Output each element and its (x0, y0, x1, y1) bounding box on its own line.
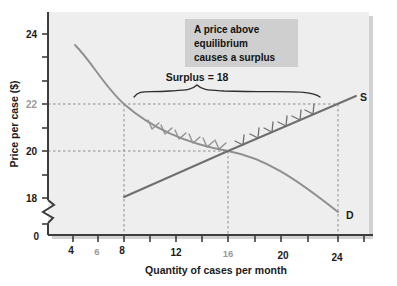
x-tick-label-20: 20 (277, 250, 289, 261)
y-axis-title: Price per case ($) (8, 81, 20, 168)
x-tick-label-16: 16 (223, 248, 234, 259)
callout-line-3: causes a surplus (194, 52, 276, 63)
y-tick-label-20: 20 (26, 146, 38, 157)
supply-curve-label: S (360, 91, 367, 103)
y-tick-label-24: 24 (26, 29, 38, 40)
x-tick-label-24: 24 (331, 252, 343, 263)
y-tick-label-0: 0 (33, 231, 39, 242)
y-tick-label-22: 22 (26, 99, 38, 110)
y-tick-label-18: 18 (26, 193, 38, 204)
demand-curve-label: D (346, 209, 354, 221)
x-tick-label-8: 8 (119, 245, 125, 256)
x-tick-label-6: 6 (94, 246, 99, 257)
x-axis-title: Quantity of cases per month (145, 264, 287, 276)
panel-shadow-right (369, 16, 373, 239)
callout-line-2: equilibrium (194, 38, 248, 49)
x-tick-label-4: 4 (68, 245, 74, 256)
supply-demand-figure: 24 22 20 18 0 4 6 8 12 16 20 24 Price pe… (0, 0, 397, 286)
callout-line-1: A price above (194, 24, 260, 35)
x-tick-label-12: 12 (170, 247, 182, 258)
surplus-label: Surplus = 18 (166, 71, 229, 83)
chart-canvas: 24 22 20 18 0 4 6 8 12 16 20 24 Price pe… (0, 0, 397, 286)
